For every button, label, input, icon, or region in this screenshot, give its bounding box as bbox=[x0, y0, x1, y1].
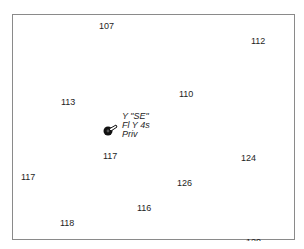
depth-sounding: 113 bbox=[61, 97, 75, 107]
depth-sounding: 110 bbox=[179, 89, 193, 99]
depth-sounding: 124 bbox=[241, 153, 256, 163]
buoy-label-owner: Priv bbox=[122, 130, 150, 139]
light-buoy-icon[interactable] bbox=[102, 123, 118, 137]
chart-frame bbox=[12, 14, 295, 240]
depth-sounding-clipped: 120 bbox=[246, 237, 261, 241]
buoy-label: Y "SE" Fl Y 4s Priv bbox=[122, 112, 150, 139]
depth-sounding: 126 bbox=[177, 178, 192, 188]
depth-sounding: 107 bbox=[99, 21, 114, 31]
depth-sounding: 118 bbox=[60, 218, 74, 228]
depth-sounding: 117 bbox=[21, 172, 35, 182]
depth-sounding: 112 bbox=[251, 36, 265, 46]
depth-sounding: 117 bbox=[103, 151, 117, 161]
depth-sounding: 116 bbox=[137, 203, 151, 213]
